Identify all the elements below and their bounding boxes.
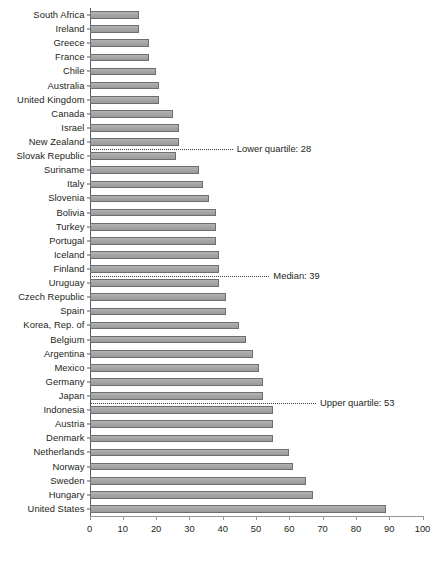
category-label: Uruguay	[49, 278, 85, 288]
bar-row: Iceland	[90, 248, 423, 262]
category-label: Sweden	[50, 476, 84, 486]
x-axis-tick	[123, 516, 124, 520]
annotation-label-lower-quartile: Lower quartile: 28	[237, 144, 312, 154]
x-axis-tick	[90, 516, 91, 520]
bar-row: Belgium	[90, 333, 423, 347]
category-label: Italy	[67, 179, 84, 189]
category-label: Czech Republic	[18, 292, 84, 302]
x-axis-tick	[156, 516, 157, 520]
bar	[90, 293, 227, 301]
x-axis-tick	[256, 516, 257, 520]
bar-row: Czech Republic	[90, 290, 423, 304]
bar	[90, 124, 180, 132]
bar-row: Australia	[90, 79, 423, 93]
x-axis-tick	[223, 516, 224, 520]
bar	[90, 110, 173, 118]
category-label: Korea, Rep. of	[23, 320, 84, 330]
bar	[90, 279, 220, 287]
category-label: Hungary	[49, 490, 85, 500]
category-label: Netherlands	[33, 447, 84, 457]
category-label: Belgium	[50, 335, 84, 345]
bar-row: Norway	[90, 460, 423, 474]
bar-row: Portugal	[90, 234, 423, 248]
bar	[90, 463, 293, 471]
category-label: Suriname	[44, 165, 85, 175]
category-label: Portugal	[49, 236, 84, 246]
bar	[90, 420, 273, 428]
category-label: Japan	[59, 391, 85, 401]
x-axis-tick	[289, 516, 290, 520]
category-label: Bolivia	[57, 208, 85, 218]
bar	[90, 435, 273, 443]
bar	[90, 181, 203, 189]
annotation-label-median: Median: 39	[273, 271, 319, 281]
bar-row: Spain	[90, 304, 423, 318]
category-label: Iceland	[54, 250, 85, 260]
bar-row: United States	[90, 502, 423, 516]
bar-chart: South AfricaIrelandGreeceFranceChileAust…	[0, 0, 441, 564]
bar-row: South Africa	[90, 8, 423, 22]
x-axis-tick-label: 20	[151, 523, 161, 534]
x-axis-tick-label: 0	[87, 523, 92, 534]
bar-row: Ireland	[90, 22, 423, 36]
bar	[90, 138, 180, 146]
category-label: United States	[28, 504, 85, 514]
bar	[90, 378, 263, 386]
bar	[90, 477, 306, 485]
bar	[90, 251, 220, 259]
bar-row: France	[90, 50, 423, 64]
bar	[90, 265, 220, 273]
category-label: Slovak Republic	[17, 151, 85, 161]
category-label: Austria	[55, 419, 85, 429]
bar	[90, 11, 140, 19]
category-label: Chile	[63, 66, 85, 76]
bar	[90, 392, 263, 400]
category-label: Germany	[46, 377, 85, 387]
bar	[90, 68, 157, 76]
annotation-line-lower-quartile	[90, 149, 233, 150]
category-label: South Africa	[33, 10, 84, 20]
bar-row: Israel	[90, 121, 423, 135]
bar-row: Chile	[90, 64, 423, 78]
bar-row: Mexico	[90, 361, 423, 375]
annotation-label-upper-quartile: Upper quartile: 53	[320, 398, 395, 408]
x-axis-tick-label: 50	[251, 523, 261, 534]
bar-row: Greece	[90, 36, 423, 50]
bar-row: Italy	[90, 177, 423, 191]
bar	[90, 25, 140, 33]
x-axis-tick-label: 70	[317, 523, 327, 534]
bar-row: United Kingdom	[90, 93, 423, 107]
category-label: Spain	[60, 306, 84, 316]
bar	[90, 350, 253, 358]
bar	[90, 96, 160, 104]
category-label: Canada	[51, 109, 84, 119]
bar-row: Canada	[90, 107, 423, 121]
bar	[90, 223, 217, 231]
category-label: Indonesia	[43, 405, 84, 415]
category-label: Denmark	[46, 433, 84, 443]
category-label: Finland	[53, 264, 84, 274]
bar-row: Korea, Rep. of	[90, 318, 423, 332]
bar	[90, 491, 313, 499]
category-label: Israel	[61, 123, 84, 133]
bar-row: Germany	[90, 375, 423, 389]
bar	[90, 195, 210, 203]
bar-row: Slovenia	[90, 191, 423, 205]
category-label: Ireland	[55, 24, 84, 34]
bar	[90, 406, 273, 414]
category-label: Turkey	[56, 222, 85, 232]
category-label: Mexico	[55, 363, 85, 373]
bar	[90, 322, 240, 330]
bar-row: Bolivia	[90, 206, 423, 220]
bar	[90, 449, 290, 457]
x-axis-tick	[389, 516, 390, 520]
bar-row: Netherlands	[90, 445, 423, 459]
x-axis-tick-label: 10	[118, 523, 128, 534]
bar	[90, 308, 227, 316]
category-label: New Zealand	[29, 137, 85, 147]
x-axis-tick-label: 90	[384, 523, 394, 534]
bar-row: Uruguay	[90, 276, 423, 290]
bar-row: Hungary	[90, 488, 423, 502]
bar	[90, 152, 177, 160]
category-label: Greece	[53, 38, 84, 48]
